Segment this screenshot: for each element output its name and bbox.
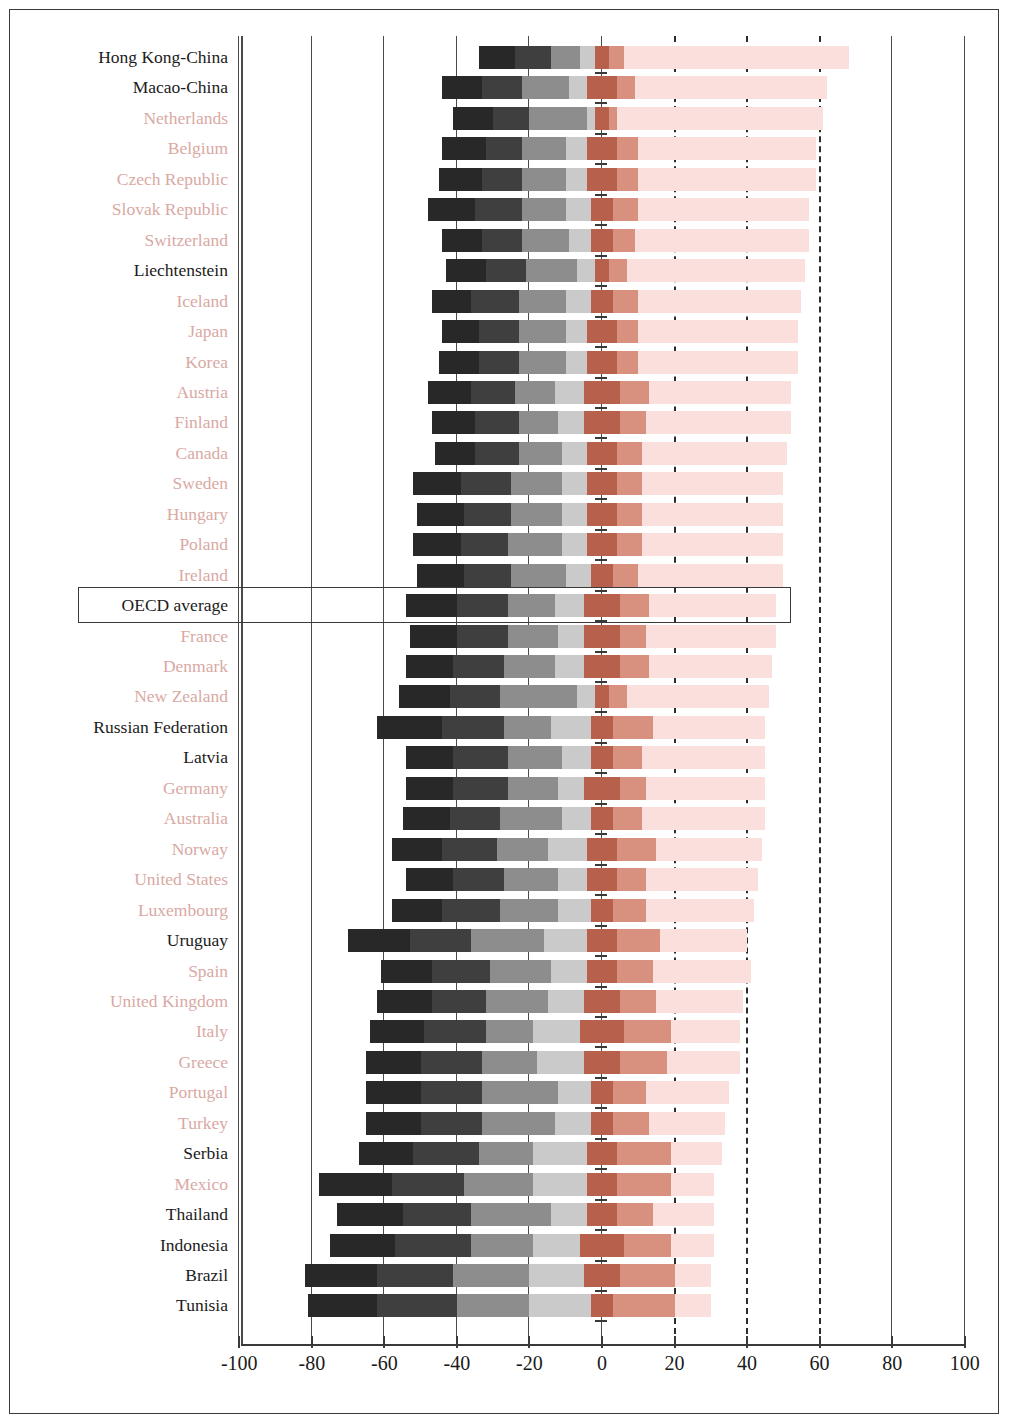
bar-segment-pos-2 [620,411,645,434]
bar-segment-neg-4 [558,1081,591,1104]
bar-segment-pos-2 [617,1203,653,1226]
bar-segment-neg-5 [587,320,602,343]
bar-segment-neg-4 [533,1234,580,1257]
bar-segment-pos-2 [613,198,638,221]
bar-segment-pos-3 [635,229,809,252]
category-label-japan: Japan [0,323,228,341]
bar-segment-neg-3 [551,46,580,69]
category-label-spain: Spain [0,963,228,981]
bar-segment-neg-1 [439,168,483,191]
bar-segment-pos-2 [613,1112,649,1135]
bar-segment-neg-4 [566,320,588,343]
bar-segment-neg-1 [442,320,478,343]
bar-segment-neg-4 [577,259,595,282]
category-label-hong-kong-china: Hong Kong-China [0,49,228,67]
bar-segment-neg-5 [591,807,602,830]
bar-segment-pos-1 [602,1051,620,1074]
bar-segment-neg-3 [511,503,562,526]
bar-segment-neg-1 [442,137,486,160]
bar-segment-neg-5 [591,746,602,769]
bar-segment-neg-1 [442,76,482,99]
bar-segment-neg-5 [580,1020,602,1043]
category-label-austria: Austria [0,384,228,402]
bar-segment-pos-3 [675,1294,711,1317]
bar-segment-neg-3 [508,746,562,769]
bar-segment-neg-1 [348,929,410,952]
chart-page: Hong Kong-ChinaMacao-ChinaNetherlandsBel… [0,0,1010,1425]
x-tick--60 [383,1336,385,1348]
bar-segment-neg-2 [413,1142,478,1165]
bar-segment-pos-3 [627,259,805,282]
bar-segment-neg-2 [475,198,522,221]
bar-segment-pos-1 [602,137,617,160]
bar-segment-neg-2 [479,320,519,343]
bar-segment-neg-3 [504,868,558,891]
x-tick-label--20: -20 [494,1352,564,1375]
bar-segment-pos-3 [671,1142,722,1165]
axis-stub [595,377,607,379]
bar-segment-neg-2 [377,1294,457,1317]
bar-segment-neg-3 [453,1264,529,1287]
bar-segment-pos-3 [656,990,743,1013]
bar-segment-pos-1 [602,1081,613,1104]
bar-segment-neg-2 [453,868,504,891]
bar-segment-pos-1 [602,685,609,708]
bar-segment-pos-3 [642,503,783,526]
bar-segment-pos-1 [602,1173,617,1196]
x-tick--20 [528,1336,530,1348]
category-label-liechtenstein: Liechtenstein [0,262,228,280]
category-label-serbia: Serbia [0,1145,228,1163]
axis-stub [595,925,607,927]
bar-segment-pos-2 [617,320,639,343]
bar-segment-neg-2 [486,259,526,282]
axis-stub [595,1260,607,1262]
bar-segment-neg-4 [558,411,583,434]
bar-segment-neg-3 [522,137,566,160]
bar-segment-neg-1 [428,381,472,404]
category-label-uruguay: Uruguay [0,932,228,950]
bar-segment-pos-1 [602,76,617,99]
bar-segment-pos-1 [602,442,617,465]
bar-segment-pos-3 [638,320,798,343]
bar-segment-neg-5 [587,929,602,952]
axis-stub [595,468,607,470]
bar-segment-neg-2 [461,472,512,495]
bar-segment-neg-5 [587,503,602,526]
bar-segment-pos-2 [620,655,649,678]
bar-segment-pos-1 [602,1264,620,1287]
category-label-czech-republic: Czech Republic [0,171,228,189]
bar-segment-neg-2 [410,929,472,952]
bar-segment-neg-3 [519,411,559,434]
category-label-turkey: Turkey [0,1115,228,1133]
bar-segment-neg-5 [595,259,602,282]
bar-segment-pos-3 [646,899,755,922]
bar-segment-pos-2 [613,899,646,922]
bar-segment-pos-3 [627,685,768,708]
axis-stub [595,1138,607,1140]
bar-segment-neg-2 [464,564,511,587]
bar-segment-pos-1 [602,229,613,252]
bar-segment-neg-3 [482,1112,555,1135]
bar-segment-pos-3 [671,1020,740,1043]
bar-segment-neg-5 [591,198,602,221]
x-tick-20 [674,1336,676,1348]
bar-segment-neg-1 [337,1203,402,1226]
axis-stub [595,316,607,318]
bar-segment-pos-2 [620,625,645,648]
bar-segment-neg-2 [432,990,486,1013]
axis-stub [595,772,607,774]
category-label-italy: Italy [0,1023,228,1041]
bar-segment-pos-2 [620,990,656,1013]
bar-segment-pos-1 [602,411,620,434]
bar-segment-neg-1 [446,259,486,282]
bar-segment-neg-3 [471,1234,533,1257]
axis-stub [595,803,607,805]
bar-segment-pos-3 [638,198,808,221]
x-tick-60 [819,1336,821,1348]
bar-segment-neg-1 [366,1112,420,1135]
bar-segment-pos-3 [635,76,827,99]
bar-segment-neg-1 [359,1142,413,1165]
bar-segment-pos-2 [617,960,653,983]
bar-segment-neg-1 [453,107,493,130]
bar-segment-neg-1 [366,1051,420,1074]
